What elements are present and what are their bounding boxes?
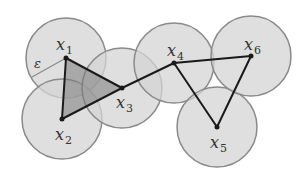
vertex-x2 [60,117,65,122]
vertex-x4 [172,61,177,66]
vertex-x3 [120,86,125,91]
simplicial-complex-diagram: ε x1x2x3x4x5x6 [0,0,308,175]
epsilon-label: ε [34,56,41,71]
vertex-x5 [215,125,220,130]
vertex-x6 [249,54,254,59]
